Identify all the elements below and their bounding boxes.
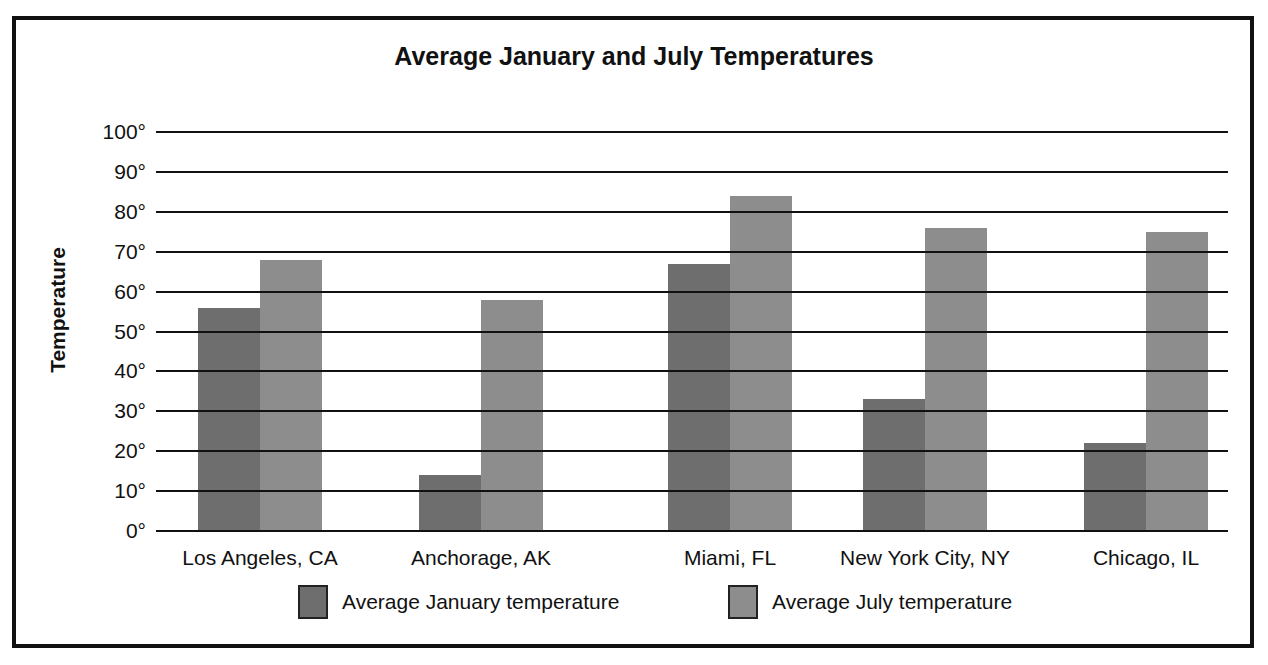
gridline — [156, 450, 1228, 452]
legend-swatch-january — [298, 585, 328, 619]
bar-july — [481, 300, 543, 531]
gridline — [156, 410, 1228, 412]
x-category-label: Anchorage, AK — [411, 546, 551, 570]
y-tick-label: 10° — [114, 479, 146, 503]
gridline — [156, 370, 1228, 372]
chart-title: Average January and July Temperatures — [0, 42, 1268, 71]
legend-label-july: Average July temperature — [772, 590, 1012, 614]
y-tick-label: 80° — [114, 200, 146, 224]
y-tick-label: 0° — [126, 519, 146, 543]
y-tick-label: 70° — [114, 240, 146, 264]
legend-item-july: Average July temperature — [728, 585, 1012, 619]
legend-item-january: Average January temperature — [298, 585, 619, 619]
bar-january — [1084, 443, 1146, 531]
legend-swatch-july — [728, 585, 758, 619]
y-tick-label: 40° — [114, 359, 146, 383]
gridline — [156, 331, 1228, 333]
bar-july — [925, 228, 987, 531]
y-tick-label: 100° — [103, 120, 146, 144]
x-category-label: Chicago, IL — [1093, 546, 1199, 570]
gridline — [156, 211, 1228, 213]
y-axis-label: Temperature — [46, 247, 70, 373]
y-tick-label: 90° — [114, 160, 146, 184]
x-category-label: New York City, NY — [840, 546, 1010, 570]
bar-january — [419, 475, 481, 531]
bar-july — [730, 196, 792, 531]
x-category-label: Miami, FL — [684, 546, 776, 570]
gridline — [156, 490, 1228, 492]
gridline — [156, 131, 1228, 133]
y-tick-label: 60° — [114, 280, 146, 304]
bar-january — [198, 308, 260, 531]
gridline — [156, 291, 1228, 293]
y-tick-label: 50° — [114, 320, 146, 344]
y-tick-label: 20° — [114, 439, 146, 463]
bar-july — [1146, 232, 1208, 531]
gridline — [156, 251, 1228, 253]
y-tick-label: 30° — [114, 399, 146, 423]
legend-label-january: Average January temperature — [342, 590, 619, 614]
gridline — [156, 530, 1228, 532]
bar-january — [863, 399, 925, 531]
x-category-label: Los Angeles, CA — [182, 546, 337, 570]
gridline — [156, 171, 1228, 173]
